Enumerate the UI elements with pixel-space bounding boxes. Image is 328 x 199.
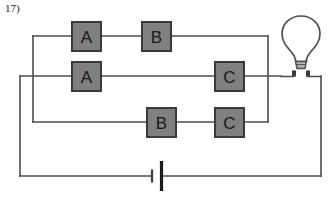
battery-icon bbox=[152, 161, 162, 191]
light-bulb-icon bbox=[281, 16, 321, 77]
worksheet-canvas: 17) A bbox=[0, 0, 328, 199]
switch-box-a-top[interactable]: A bbox=[72, 22, 101, 51]
switch-box-b-top[interactable]: B bbox=[142, 22, 171, 51]
bulb-terminal-right bbox=[306, 71, 310, 77]
switch-label: C bbox=[223, 114, 235, 133]
bulb-terminal-left bbox=[292, 71, 296, 77]
switch-label: B bbox=[151, 28, 162, 47]
circuit-diagram: A B A C B C bbox=[0, 0, 328, 199]
switch-box-c-middle[interactable]: C bbox=[215, 62, 244, 91]
wire-network bbox=[20, 36, 321, 176]
switch-label: B bbox=[156, 114, 167, 133]
switch-box-c-bottom[interactable]: C bbox=[215, 108, 244, 137]
switch-label: A bbox=[81, 68, 93, 87]
switch-box-a-middle[interactable]: A bbox=[72, 62, 101, 91]
switch-label: A bbox=[81, 28, 93, 47]
switch-box-b-bottom[interactable]: B bbox=[147, 108, 176, 137]
switch-label: C bbox=[223, 68, 235, 87]
switch-boxes: A B A C B C bbox=[72, 22, 244, 137]
